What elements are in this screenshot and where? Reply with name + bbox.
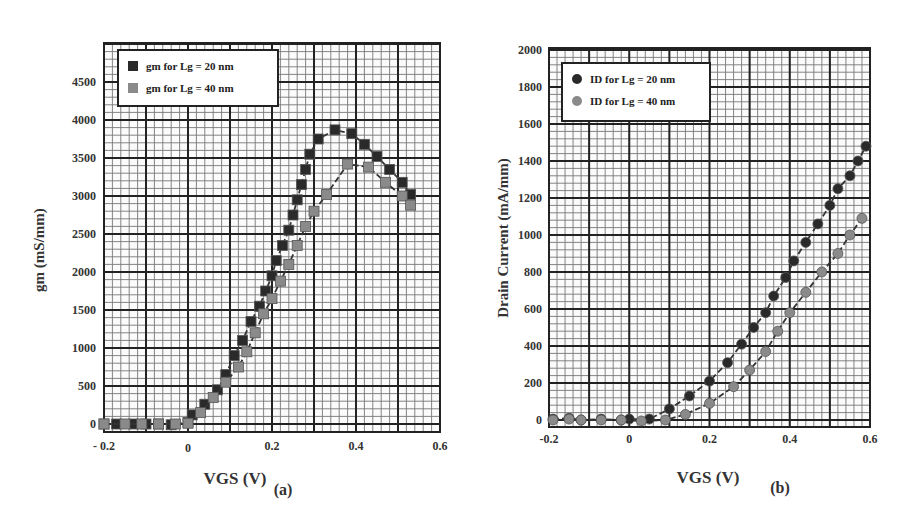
data-point <box>380 177 390 187</box>
legend-marker-circle-icon <box>572 74 582 84</box>
x-axis-ticks: - 0.200.20.40.6 <box>93 439 448 455</box>
data-point <box>271 256 281 266</box>
x-tick-label: - 0.2 <box>93 439 115 453</box>
data-point <box>857 213 867 223</box>
legend-marker-circle-icon <box>572 96 582 106</box>
data-point <box>705 398 715 408</box>
x-axis-label: VGS (V) <box>677 468 740 487</box>
data-point <box>845 171 855 181</box>
data-point <box>833 249 843 259</box>
y-axis-ticks: 050010001500200025003000350040004500 <box>72 75 96 431</box>
data-point <box>825 200 835 210</box>
chart-gm-vs-vgs: 050010001500200025003000350040004500- 0.… <box>0 0 460 527</box>
data-point <box>238 335 248 345</box>
y-tick-label: 2000 <box>72 265 96 279</box>
y-tick-label: 1600 <box>518 117 542 131</box>
data-point <box>785 308 795 318</box>
y-tick-label: 3000 <box>72 189 96 203</box>
y-tick-label: 0 <box>90 417 96 431</box>
y-tick-label: 4500 <box>72 75 96 89</box>
data-point <box>359 139 369 149</box>
data-point <box>684 391 694 401</box>
data-point <box>313 134 323 144</box>
x-tick-label: 0 <box>185 441 191 455</box>
y-tick-label: 1400 <box>518 154 542 168</box>
data-point <box>267 294 277 304</box>
data-point <box>229 351 239 361</box>
x-tick-label: 0.4 <box>349 439 364 453</box>
data-point <box>364 162 374 172</box>
data-point <box>801 237 811 247</box>
y-tick-label: 1000 <box>518 228 542 242</box>
y-axis-ticks: 0200400600800100012001400160018002000 <box>518 43 542 427</box>
x-tick-label: 0 <box>626 432 632 446</box>
data-point <box>221 377 231 387</box>
data-point <box>564 414 574 424</box>
x-tick-label: 0.4 <box>782 432 797 446</box>
data-point <box>322 189 332 199</box>
y-tick-label: 500 <box>78 379 96 393</box>
data-point <box>309 206 319 216</box>
data-point <box>183 418 193 428</box>
y-tick-label: 2000 <box>518 43 542 57</box>
data-point <box>789 256 799 266</box>
data-point <box>305 149 315 159</box>
data-point <box>723 358 733 368</box>
data-point <box>749 323 759 333</box>
legend-marker-square-icon <box>128 83 138 93</box>
y-tick-label: 1500 <box>72 303 96 317</box>
data-point <box>729 382 739 392</box>
data-point <box>137 419 147 429</box>
data-point <box>343 159 353 169</box>
data-point <box>292 195 302 205</box>
data-point <box>372 151 382 161</box>
data-point <box>817 267 827 277</box>
data-point <box>120 419 130 429</box>
data-point <box>385 164 395 174</box>
data-point <box>773 326 783 336</box>
x-axis-label: VGS (V) <box>204 469 267 488</box>
legend: ID for Lg = 20 nmID for Lg = 40 nm <box>562 63 710 121</box>
data-point <box>548 415 558 425</box>
data-point <box>745 365 755 375</box>
data-point <box>347 129 357 139</box>
legend-label: ID for Lg = 40 nm <box>590 95 675 107</box>
data-point <box>301 164 311 174</box>
data-point <box>596 415 606 425</box>
chart-drain-current-vs-vgs: 0200400600800100012001400160018002000-0.… <box>460 0 911 527</box>
panel-label: (a) <box>274 481 293 499</box>
legend-label: gm for Lg = 40 nm <box>146 82 234 94</box>
data-point <box>406 200 416 210</box>
x-axis-ticks: -0.200.20.40.6 <box>540 432 878 446</box>
data-point <box>801 287 811 297</box>
data-point <box>636 416 646 426</box>
data-point <box>301 221 311 231</box>
y-axis-label: Drain Current (mA/mm) <box>495 158 512 318</box>
y-tick-label: 800 <box>524 265 542 279</box>
data-point <box>170 419 180 429</box>
x-tick-label: 0.6 <box>433 439 448 453</box>
data-point <box>737 339 747 349</box>
y-tick-label: 200 <box>524 376 542 390</box>
chart-panel-a: 050010001500200025003000350040004500- 0.… <box>0 0 460 527</box>
data-point <box>769 291 779 301</box>
data-point <box>250 328 260 338</box>
data-point <box>246 316 256 326</box>
data-point <box>330 125 340 135</box>
data-point <box>242 347 252 357</box>
y-tick-label: 0 <box>536 413 542 427</box>
data-point <box>288 210 298 220</box>
data-point <box>233 362 243 372</box>
data-point <box>196 408 206 418</box>
data-point <box>845 230 855 240</box>
legend: gm for Lg = 20 nmgm for Lg = 40 nm <box>118 50 278 106</box>
x-tick-label: -0.2 <box>540 432 559 446</box>
y-tick-label: 1200 <box>518 191 542 205</box>
y-tick-label: 1000 <box>72 341 96 355</box>
data-point <box>705 376 715 386</box>
data-point <box>781 273 791 283</box>
x-tick-label: 0.6 <box>863 432 878 446</box>
data-point <box>296 180 306 190</box>
data-point <box>813 219 823 229</box>
y-tick-label: 4000 <box>72 113 96 127</box>
